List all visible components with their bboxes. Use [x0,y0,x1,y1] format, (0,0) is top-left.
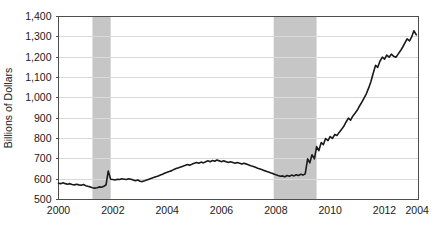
x-tick-label-5: 2010 [319,204,343,216]
chart-figure: 5006007008009001,0001,1001,2001,3001,400… [0,0,445,232]
y-tick-label-700: 700 [34,152,52,164]
x-tick-label-3: 2006 [210,204,234,216]
y-axis-title-text: Billions of Dollars [2,68,14,149]
y-tick-label-900: 900 [34,112,52,124]
y-tick-label-800: 800 [34,132,52,144]
x-tick-label-0: 2000 [47,204,71,216]
y-tick-label-600: 600 [34,173,52,185]
chart-background [0,0,445,232]
x-tick-label-7: 2004 [405,204,429,216]
x-tick-label-4: 2008 [264,204,288,216]
x-tick-label-1: 2002 [101,204,125,216]
shaded-region-recession-2008 [274,17,317,200]
x-tick-label-6: 2012 [373,204,397,216]
y-axis-title: Billions of Dollars [2,68,14,149]
line-chart: 5006007008009001,0001,1001,2001,3001,400… [0,0,445,232]
y-tick-label-1300: 1,300 [25,30,51,42]
y-tick-label-1200: 1,200 [25,51,51,63]
y-tick-label-1400: 1,400 [25,10,51,22]
y-tick-label-1100: 1,100 [25,71,51,83]
y-tick-label-1000: 1,000 [25,91,51,103]
x-tick-label-2: 2004 [155,204,179,216]
